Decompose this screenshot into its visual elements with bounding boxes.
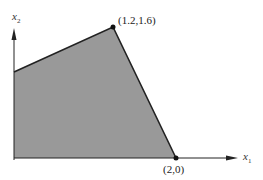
y-axis-arrow-icon	[12, 28, 17, 40]
feasible-region	[14, 27, 176, 158]
vertex-dot-right	[174, 156, 179, 161]
x-axis-label: x1	[243, 150, 251, 165]
vertex-label-right: (2,0)	[163, 163, 184, 175]
x-axis-arrow-icon	[226, 156, 238, 161]
y-axis-label: x2	[12, 10, 20, 25]
feasible-region-diagram	[0, 0, 263, 180]
vertex-label-top: (1.2,1.6)	[118, 14, 156, 26]
vertex-dot-top	[111, 25, 116, 30]
